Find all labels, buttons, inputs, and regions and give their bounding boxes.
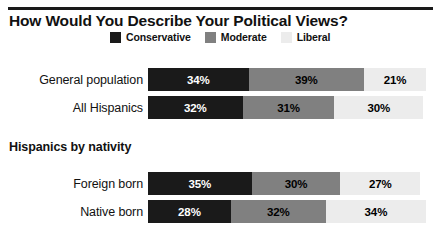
bar-segment-moderate: 39% bbox=[249, 68, 364, 91]
bar-segment-liberal: 21% bbox=[364, 68, 426, 91]
legend-swatch-icon bbox=[205, 32, 216, 43]
legend-swatch-icon bbox=[110, 32, 121, 43]
chart-legend: Conservative Moderate Liberal bbox=[110, 31, 330, 43]
stacked-bar-track: 35% 30% 27% bbox=[148, 172, 420, 195]
bar-row: Native born 28% 32% 34% bbox=[0, 200, 441, 223]
bar-segment-liberal: 34% bbox=[326, 200, 427, 223]
legend-item-label: Conservative bbox=[126, 31, 191, 43]
bar-segment-liberal: 30% bbox=[334, 96, 423, 119]
bar-segment-moderate: 30% bbox=[252, 172, 341, 195]
bar-segment-moderate: 31% bbox=[243, 96, 335, 119]
section-header-hispanics-by-nativity: Hispanics by nativity bbox=[9, 140, 131, 154]
bar-segment-conservative: 28% bbox=[148, 200, 231, 223]
bar-row-label: Foreign born bbox=[0, 172, 143, 195]
stacked-bar-track: 34% 39% 21% bbox=[148, 68, 426, 91]
title-divider-rule bbox=[8, 7, 433, 10]
bar-row: General population 34% 39% 21% bbox=[0, 68, 441, 91]
bar-segment-conservative: 34% bbox=[148, 68, 249, 91]
bar-segment-conservative: 32% bbox=[148, 96, 243, 119]
bar-row-label: Native born bbox=[0, 200, 143, 223]
bar-segment-conservative: 35% bbox=[148, 172, 252, 195]
stacked-bar-track: 32% 31% 30% bbox=[148, 96, 423, 119]
bar-row-label: General population bbox=[0, 68, 143, 91]
legend-item-moderate: Moderate bbox=[205, 31, 267, 43]
legend-item-label: Moderate bbox=[221, 31, 267, 43]
legend-item-conservative: Conservative bbox=[110, 31, 191, 43]
bar-segment-moderate: 32% bbox=[231, 200, 326, 223]
legend-swatch-icon bbox=[281, 32, 292, 43]
page-title: How Would You Describe Your Political Vi… bbox=[9, 12, 348, 30]
bar-row: Foreign born 35% 30% 27% bbox=[0, 172, 441, 195]
bar-segment-liberal: 27% bbox=[340, 172, 420, 195]
legend-item-liberal: Liberal bbox=[281, 31, 331, 43]
bar-row-label: All Hispanics bbox=[0, 96, 143, 119]
chart-container: How Would You Describe Your Political Vi… bbox=[0, 0, 441, 247]
legend-item-label: Liberal bbox=[297, 31, 331, 43]
bar-row: All Hispanics 32% 31% 30% bbox=[0, 96, 441, 119]
stacked-bar-track: 28% 32% 34% bbox=[148, 200, 426, 223]
